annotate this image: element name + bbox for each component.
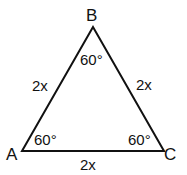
vertex-label-b: B xyxy=(86,6,97,25)
side-label-ab: 2x xyxy=(32,77,48,94)
triangle-diagram: B A C 60° 60° 60° 2x 2x 2x xyxy=(0,0,187,175)
angle-label-b: 60° xyxy=(80,51,103,68)
side-label-ac: 2x xyxy=(80,156,96,173)
side-label-bc: 2x xyxy=(136,76,152,93)
vertex-label-a: A xyxy=(6,145,18,164)
angle-label-c: 60° xyxy=(128,131,151,148)
vertex-label-c: C xyxy=(164,145,176,164)
angle-label-a: 60° xyxy=(34,131,57,148)
